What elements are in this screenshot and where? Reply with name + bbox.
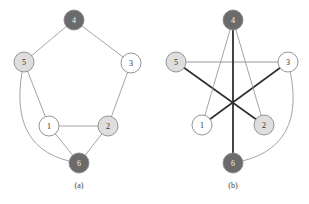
node-6[interactable]: 6 [223, 153, 243, 173]
node-2[interactable]: 2 [98, 116, 118, 136]
node-label-4: 4 [72, 16, 76, 25]
panel-a-nodes: 453126 [14, 10, 141, 173]
node-label-6: 6 [77, 159, 81, 168]
node-label-4: 4 [231, 16, 235, 25]
node-label-5: 5 [22, 58, 26, 67]
node-label-1: 1 [200, 121, 204, 130]
edge-4-1 [202, 20, 233, 125]
edge-3-6 [233, 62, 293, 163]
panel-b: 453126(b) [166, 10, 298, 190]
node-label-2: 2 [106, 122, 110, 131]
node-label-2: 2 [262, 121, 266, 130]
edge-5-6 [20, 62, 79, 163]
edge-4-3 [74, 20, 131, 63]
edge-4-2 [233, 20, 264, 125]
node-label-3: 3 [129, 59, 133, 68]
panel-b-nodes: 453126 [166, 10, 298, 173]
node-5[interactable]: 5 [166, 52, 186, 72]
node-label-5: 5 [174, 58, 178, 67]
node-6[interactable]: 6 [69, 153, 89, 173]
node-4[interactable]: 4 [64, 10, 84, 30]
node-label-3: 3 [286, 58, 290, 67]
node-3[interactable]: 3 [278, 52, 298, 72]
node-3[interactable]: 3 [121, 53, 141, 73]
panel-b-caption: (b) [228, 181, 238, 190]
panel-a-caption: (a) [75, 181, 84, 190]
graph-figure-svg: 453126(a)453126(b) [0, 0, 309, 204]
node-label-6: 6 [231, 159, 235, 168]
node-label-1: 1 [47, 122, 51, 131]
node-5[interactable]: 5 [14, 52, 34, 72]
panel-a-edges [20, 20, 131, 163]
node-2[interactable]: 2 [254, 115, 274, 135]
edge-3-1 [202, 62, 288, 125]
panel-b-edges [176, 20, 293, 163]
node-1[interactable]: 1 [192, 115, 212, 135]
figure-container: 453126(a)453126(b) [0, 0, 309, 204]
node-4[interactable]: 4 [223, 10, 243, 30]
edge-5-2 [176, 62, 264, 125]
node-1[interactable]: 1 [39, 116, 59, 136]
panel-a: 453126(a) [14, 10, 141, 190]
